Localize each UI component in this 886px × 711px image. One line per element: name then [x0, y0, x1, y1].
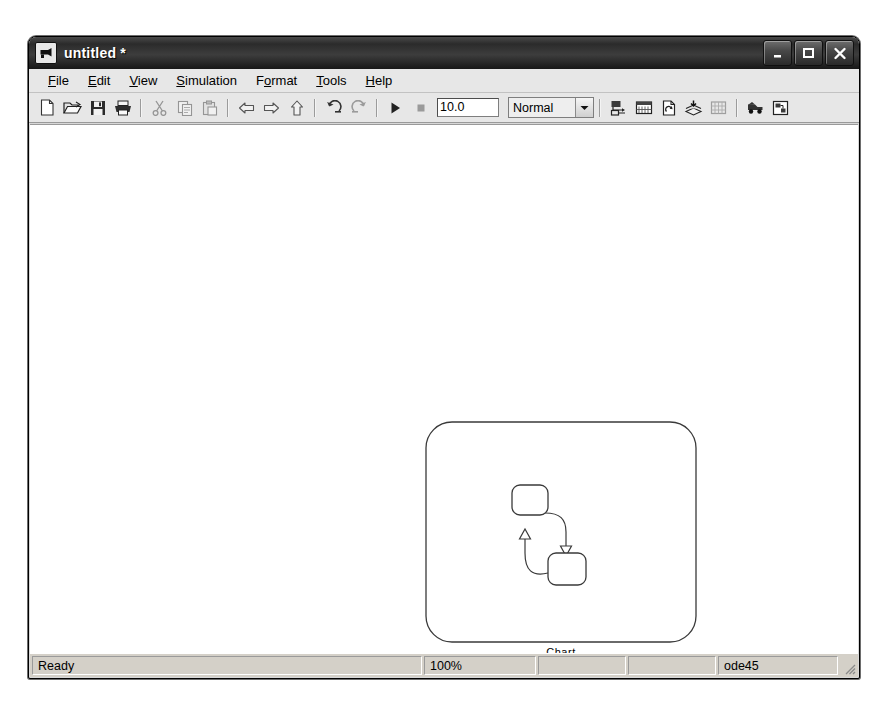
model-canvas[interactable]: Chart	[30, 124, 858, 653]
open-model-button[interactable]	[60, 96, 85, 120]
simulation-mode-dropdown[interactable]: Normal	[508, 97, 594, 118]
toolbar-separator	[599, 99, 601, 117]
menu-item-edit[interactable]: Edit	[79, 71, 120, 90]
toolbar-separator	[314, 99, 316, 117]
toolbar: 10.0 Normal	[29, 93, 859, 123]
debug-button[interactable]	[743, 96, 768, 120]
print-button[interactable]	[110, 96, 135, 120]
update-diagram-button[interactable]	[656, 96, 681, 120]
maximize-button[interactable]	[794, 40, 823, 66]
save-model-button[interactable]	[85, 96, 110, 120]
window-title: untitled *	[64, 45, 763, 61]
paste-button[interactable]	[197, 96, 222, 120]
menu-item-format[interactable]: Format	[247, 71, 307, 90]
menu-bar: File Edit View Simulation Format Tools H…	[29, 69, 859, 93]
status-bar: Ready 100% ode45	[30, 653, 858, 677]
menu-item-help[interactable]: Help	[357, 71, 403, 90]
model-parameters-button[interactable]	[768, 96, 793, 120]
toolbar-separator	[376, 99, 378, 117]
toggle-grid-button[interactable]	[706, 96, 731, 120]
menu-item-file[interactable]: File	[39, 71, 79, 90]
build-model-button[interactable]	[681, 96, 706, 120]
solver-name: ode45	[718, 656, 838, 675]
simulink-model-window: untitled * File Edit View Simulatio	[28, 36, 860, 679]
resize-grip-icon[interactable]	[840, 654, 858, 677]
chevron-down-icon[interactable]	[575, 98, 593, 117]
close-button[interactable]	[825, 40, 854, 66]
simulation-mode-value: Normal	[509, 101, 575, 115]
up-level-button[interactable]	[284, 96, 309, 120]
simulation-stop-time-input[interactable]: 10.0	[437, 98, 499, 117]
stop-simulation-button[interactable]	[408, 96, 433, 120]
menu-item-view[interactable]: View	[120, 71, 167, 90]
toolbar-separator	[140, 99, 142, 117]
title-bar: untitled *	[29, 37, 859, 69]
start-simulation-button[interactable]	[383, 96, 408, 120]
undo-button[interactable]	[321, 96, 346, 120]
status-panel-4	[628, 656, 716, 675]
zoom-level: 100%	[424, 656, 536, 675]
back-button[interactable]	[234, 96, 259, 120]
minimize-button[interactable]	[763, 40, 792, 66]
copy-button[interactable]	[172, 96, 197, 120]
chart-block-label: Chart	[424, 646, 698, 653]
toolbar-separator	[736, 99, 738, 117]
forward-button[interactable]	[259, 96, 284, 120]
stateflow-chart-block[interactable]	[424, 420, 698, 644]
library-browser-button[interactable]	[606, 96, 631, 120]
status-message: Ready	[32, 656, 422, 675]
simulink-model-icon	[35, 42, 57, 64]
new-model-button[interactable]	[35, 96, 60, 120]
toolbar-separator	[227, 99, 229, 117]
menu-item-tools[interactable]: Tools	[307, 71, 356, 90]
menu-item-simulation[interactable]: Simulation	[167, 71, 247, 90]
model-explorer-button[interactable]	[631, 96, 656, 120]
cut-button[interactable]	[147, 96, 172, 120]
redo-button[interactable]	[346, 96, 371, 120]
status-panel-3	[538, 656, 626, 675]
caption-button-group	[763, 40, 856, 66]
